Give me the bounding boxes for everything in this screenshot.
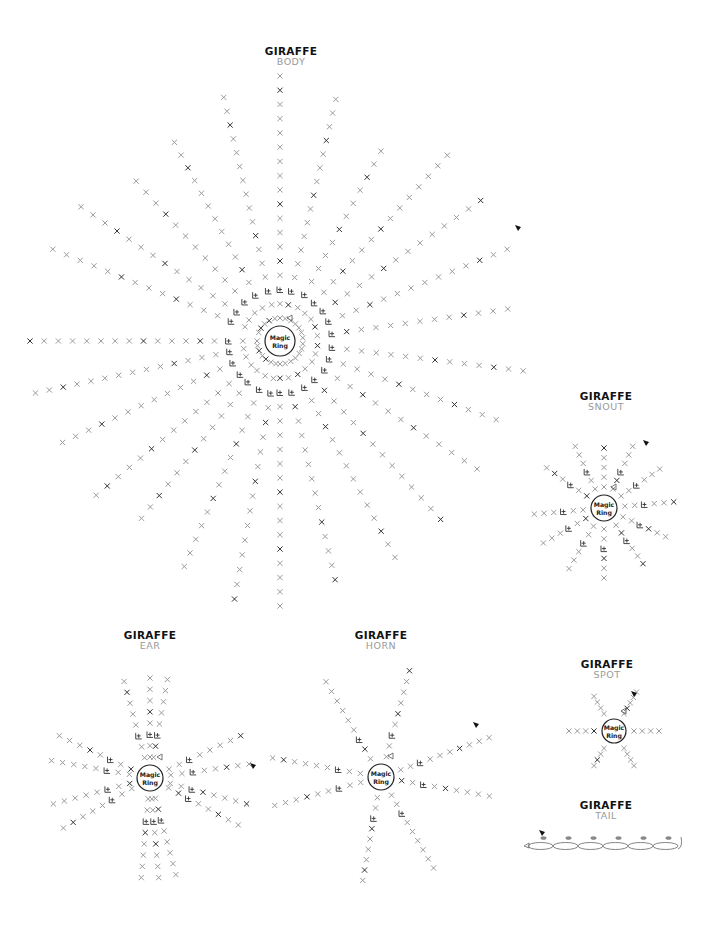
title-snout: GIRAFFESNOUT <box>536 390 676 413</box>
svg-text:Ring: Ring <box>606 732 622 740</box>
diagram-ear: MagicRing <box>49 675 256 880</box>
svg-text:Ring: Ring <box>596 509 612 517</box>
diagram-snout: MagicRing <box>532 440 677 581</box>
diagram-tail <box>524 830 682 850</box>
crochet-diagrams-canvas: MagicRingMagicRingMagicRingMagicRingMagi… <box>0 0 723 936</box>
svg-text:Ring: Ring <box>272 342 288 350</box>
title-body: GIRAFFEBODY <box>221 45 361 68</box>
diagram-spot: MagicRing <box>566 689 661 768</box>
title-tail: GIRAFFETAIL <box>536 799 676 822</box>
title-horn: GIRAFFEHORN <box>311 629 451 652</box>
title-spot: GIRAFFESPOT <box>537 658 677 681</box>
diagram-body: MagicRing <box>27 73 525 608</box>
diagram-horn: MagicRing <box>270 668 492 883</box>
title-ear: GIRAFFEEAR <box>80 629 220 652</box>
svg-text:Ring: Ring <box>142 779 158 787</box>
svg-text:Ring: Ring <box>373 778 389 786</box>
